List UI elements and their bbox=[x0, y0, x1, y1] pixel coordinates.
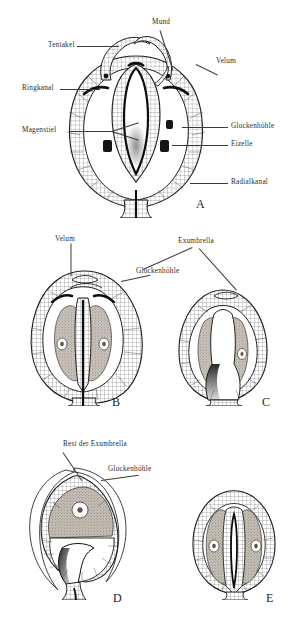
figure-e-drawing bbox=[182, 484, 286, 600]
label-mund: Mund bbox=[152, 19, 170, 26]
figure-b-drawing bbox=[20, 258, 150, 406]
leader-magenstiel bbox=[70, 131, 112, 132]
figure-letter-a: A bbox=[196, 198, 205, 210]
figure-letter-d: D bbox=[113, 592, 122, 604]
label-glockenhoehle-d: Glockenhöhle bbox=[108, 466, 151, 473]
stalk-c bbox=[206, 400, 242, 406]
label-eizelle: Eizelle bbox=[231, 141, 253, 148]
label-glockenhoehle-a: Glockenhöhle bbox=[231, 123, 274, 130]
manubrium-b bbox=[75, 298, 91, 392]
figure-letter-b: B bbox=[112, 396, 120, 408]
label-ringkanal: Ringkanal bbox=[22, 85, 54, 92]
stalk-e bbox=[222, 592, 248, 600]
leader-glockenhoehle-a bbox=[182, 127, 228, 128]
leader-eizelle bbox=[172, 145, 228, 146]
figure-letter-c: C bbox=[262, 396, 270, 408]
leader-tentakel bbox=[77, 46, 119, 47]
figure-letter-e: E bbox=[266, 592, 273, 604]
label-exumbrella-c: Exumbrella bbox=[178, 238, 214, 245]
figure-c-drawing bbox=[170, 278, 282, 406]
label-velum-b: Velum bbox=[55, 236, 75, 243]
label-velum-a: Velum bbox=[216, 58, 236, 65]
stalk-d bbox=[62, 582, 86, 600]
label-tentakel: Tentakel bbox=[48, 42, 75, 49]
leader-radialkanal bbox=[190, 183, 228, 184]
leader-ringkanal bbox=[60, 89, 100, 90]
illustration-plate: Mund Tentakel Velum Ringkanal Magenstiel… bbox=[0, 0, 296, 623]
leader-velum-b bbox=[71, 244, 72, 277]
figure-d-drawing bbox=[22, 462, 146, 600]
label-rest-der-exumbrella-d: Rest der Exumbrella bbox=[63, 441, 127, 448]
label-magenstiel: Magenstiel bbox=[22, 127, 56, 134]
figure-a-drawing bbox=[58, 28, 238, 218]
label-glockenhoehle-b: Glockenhöhle bbox=[136, 268, 179, 275]
manubrium-e bbox=[223, 507, 245, 594]
label-radialkanal: Radialkanal bbox=[231, 179, 268, 186]
